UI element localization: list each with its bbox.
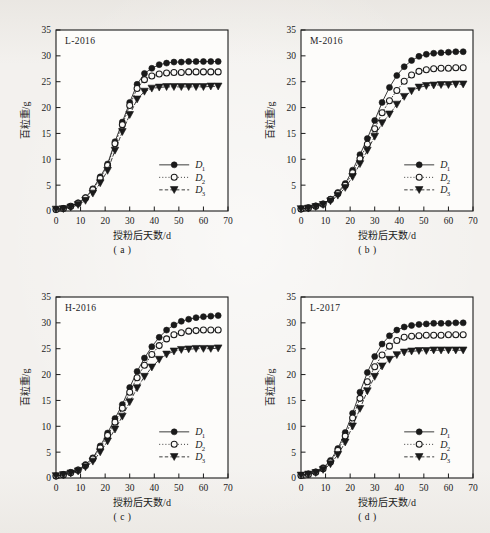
data-point-D1 [164, 60, 170, 66]
data-point-D2 [164, 70, 170, 76]
y-tick-label: 25 [287, 77, 297, 87]
data-point-D1 [401, 64, 407, 70]
x-tick-label: 20 [100, 216, 110, 226]
data-point-D2 [401, 334, 407, 340]
data-point-D2 [215, 327, 221, 333]
data-point-D1 [379, 341, 385, 347]
x-tick-label: 70 [468, 216, 478, 226]
chart-panel-b: 01020304050607005101520253035M-2016授粉后天数… [245, 0, 490, 267]
data-point-D1 [364, 369, 370, 375]
x-tick-label: 20 [345, 216, 355, 226]
data-point-D2 [200, 327, 206, 333]
x-tick-label: 40 [395, 216, 405, 226]
data-point-D2 [193, 327, 199, 333]
x-tick-label: 30 [370, 216, 380, 226]
y-tick-label: 5 [291, 447, 296, 457]
y-tick-label: 35 [42, 292, 52, 302]
data-point-D1 [156, 62, 162, 68]
data-point-D2 [409, 72, 415, 78]
x-axis-label: 授粉后天数/d [113, 229, 171, 241]
data-point-D2 [156, 342, 162, 348]
data-point-D2 [364, 378, 370, 384]
data-point-D1 [372, 118, 378, 124]
data-point-D1 [149, 343, 155, 349]
figure-panel-grid: 01020304050607005101520253035L-2016授粉后天数… [0, 0, 490, 533]
panel-title-b: M-2016 [310, 36, 343, 46]
data-point-D1 [438, 320, 444, 326]
y-axis-label: 百粒重/g [19, 102, 31, 140]
data-point-D1 [193, 314, 199, 320]
panel-caption-c: ( c ) [0, 512, 245, 522]
data-point-D2 [401, 78, 407, 84]
x-tick-label: 0 [54, 216, 59, 226]
legend-marker-D1 [416, 162, 422, 168]
data-point-D2 [149, 351, 155, 357]
data-point-D2 [372, 363, 378, 369]
y-tick-label: 35 [42, 25, 52, 35]
data-point-D2 [423, 67, 429, 73]
legend-marker-D2 [171, 441, 177, 447]
data-point-D2 [357, 395, 363, 401]
y-tick-label: 25 [42, 344, 52, 354]
data-point-D1 [460, 49, 466, 55]
data-point-D2 [141, 362, 147, 368]
data-point-D2 [379, 351, 385, 357]
data-point-D1 [208, 313, 214, 319]
y-tick-label: 20 [287, 103, 297, 113]
legend-sub-D3: 3 [447, 190, 451, 197]
panel-title-c: H-2016 [65, 303, 96, 313]
data-point-D1 [171, 321, 177, 327]
data-point-D1 [438, 50, 444, 56]
x-tick-label: 60 [444, 216, 454, 226]
data-point-D2 [149, 73, 155, 79]
legend-sub-D3: 3 [202, 190, 206, 197]
data-point-D2 [386, 343, 392, 349]
x-tick-label: 30 [125, 482, 135, 492]
y-tick-label: 0 [46, 473, 51, 483]
data-point-D1 [141, 355, 147, 361]
y-tick-label: 10 [42, 421, 52, 431]
y-tick-label: 0 [291, 473, 296, 483]
data-point-D2 [409, 333, 415, 339]
data-point-D1 [215, 312, 221, 318]
data-point-D2 [438, 332, 444, 338]
data-point-D2 [134, 85, 140, 91]
y-tick-label: 5 [291, 181, 296, 191]
x-tick-label: 0 [54, 482, 59, 492]
data-point-D2 [445, 331, 451, 337]
data-point-D2 [208, 327, 214, 333]
data-point-D1 [134, 368, 140, 374]
y-tick-label: 5 [46, 181, 51, 191]
data-point-D2 [431, 332, 437, 338]
y-axis-label: 百粒重/g [264, 368, 276, 406]
chart-panel-d: 01020304050607005101520253035L-2017授粉后天数… [245, 267, 490, 533]
y-tick-label: 35 [287, 25, 297, 35]
data-point-D2 [445, 65, 451, 71]
data-point-D2 [112, 419, 118, 425]
data-point-D1 [193, 59, 199, 65]
data-point-D2 [453, 331, 459, 337]
y-tick-label: 15 [287, 395, 297, 405]
y-tick-label: 25 [42, 77, 52, 87]
data-point-D1 [200, 59, 206, 65]
data-point-D2 [350, 415, 356, 421]
legend-marker-D2 [416, 174, 422, 180]
x-tick-label: 60 [444, 482, 454, 492]
data-point-D1 [423, 320, 429, 326]
data-point-D1 [445, 49, 451, 55]
x-tick-label: 10 [76, 216, 86, 226]
x-tick-label: 10 [321, 216, 331, 226]
data-point-D2 [372, 126, 378, 132]
data-point-D1 [186, 316, 192, 322]
panel-caption-a: ( a ) [0, 245, 245, 255]
data-point-D2 [438, 65, 444, 71]
data-point-D1 [208, 59, 214, 65]
data-point-D2 [134, 374, 140, 380]
data-point-D2 [416, 332, 422, 338]
data-point-D2 [460, 331, 466, 337]
x-tick-label: 70 [468, 482, 478, 492]
data-point-D1 [156, 334, 162, 340]
data-point-D1 [386, 332, 392, 338]
data-point-D2 [164, 335, 170, 341]
data-point-D2 [171, 69, 177, 75]
